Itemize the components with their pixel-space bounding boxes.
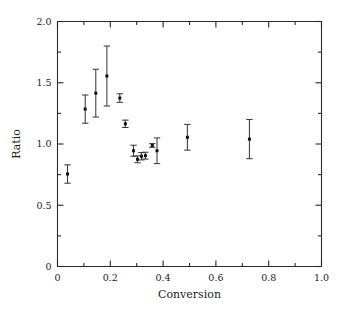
data-marker	[124, 122, 127, 125]
x-tick-label: 0.6	[208, 272, 223, 283]
axis-frame-tr	[58, 22, 322, 267]
data-point	[154, 138, 160, 164]
data-point	[93, 69, 99, 117]
x-tick-label: 1.0	[314, 272, 329, 283]
x-tick-label: 0.8	[261, 272, 276, 283]
data-point	[149, 144, 155, 148]
plot-canvas: 00.51.01.52.000.20.40.60.81.0ConversionR…	[0, 0, 343, 315]
data-point	[142, 152, 148, 159]
y-tick-label: 0.5	[36, 200, 51, 211]
data-point	[134, 156, 140, 163]
data-marker	[118, 97, 121, 100]
data-marker	[132, 149, 135, 152]
data-point	[64, 165, 70, 183]
axis-frame-lb	[58, 22, 322, 267]
y-tick-label: 2.0	[36, 16, 51, 27]
data-point	[82, 95, 88, 123]
data-marker	[151, 144, 154, 147]
y-tick-label: 1.0	[36, 138, 51, 149]
data-point	[122, 120, 128, 127]
y-tick-label: 0	[45, 261, 51, 272]
x-tick-label: 0	[54, 272, 60, 283]
data-marker	[186, 136, 189, 139]
y-tick-label: 1.5	[36, 77, 51, 88]
data-marker	[156, 149, 159, 152]
data-marker	[94, 92, 97, 95]
x-axis-title: Conversion	[158, 288, 221, 301]
scatter-chart-figure: 00.51.01.52.000.20.40.60.81.0ConversionR…	[0, 0, 343, 315]
data-marker	[105, 75, 108, 78]
y-axis-title: Ratio	[10, 129, 23, 159]
x-tick-label: 0.2	[103, 272, 118, 283]
data-marker	[248, 138, 251, 141]
data-point	[130, 145, 136, 156]
data-marker	[84, 108, 87, 111]
x-tick-label: 0.4	[156, 272, 171, 283]
data-marker	[66, 173, 69, 176]
data-marker	[140, 155, 143, 158]
data-point	[246, 120, 252, 159]
data-marker	[144, 154, 147, 157]
data-point	[104, 46, 110, 106]
data-point	[117, 94, 123, 103]
data-point	[184, 124, 190, 150]
